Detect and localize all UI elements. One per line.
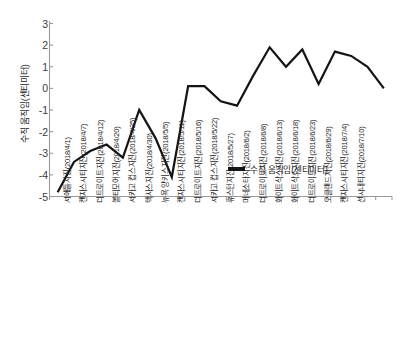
x-tick-label: 뉴욕 양키스지진(2018/5/5)	[159, 121, 170, 202]
x-tick-label: 신시내티지진(2018/7/10)	[355, 126, 366, 203]
legend-line-swatch	[228, 167, 245, 171]
x-tick-label: 캔자스시티지진(2018/5/11)	[175, 120, 186, 203]
x-tick-label: 디트로이트지진(2018/6/23)	[306, 119, 317, 202]
legend-label: 수직 움직임(센티미터)	[250, 163, 328, 175]
x-axis-tick-labels: 시애틀지진(2018/4/1)캔자스시티지진(2018/4/7)디트로이트지진(…	[0, 0, 402, 354]
x-tick-label: 디트로이트지진(2018/4/12)	[94, 119, 105, 202]
chart-legend: 수직 움직임(센티미터)	[228, 163, 328, 175]
x-tick-label: 캔자스시티지진(2018/4/7)	[77, 123, 88, 202]
x-tick-label: 디트로이트지진(2018/5/16)	[192, 119, 203, 202]
x-tick-label: 시카고 컵스지진(2018/5/22)	[208, 117, 219, 202]
x-tick-label: 볼티모어지진(2018/4/20)	[110, 126, 121, 203]
x-tick-label: 캔자스시티지진(2018/7/4)	[338, 123, 349, 202]
x-tick-label: 텍사스지진(2018/4/30)	[143, 133, 154, 203]
x-tick-label: 시애틀지진(2018/4/1)	[61, 137, 72, 203]
line-chart: 수직 움직임(센티미터) 3210-1-2-3-4-5 시애틀지진(2018/4…	[0, 0, 402, 354]
x-tick-label: 화이트삭스지진(2018/6/18)	[289, 119, 300, 202]
x-tick-label: 화이트삭스지진(2018/6/13)	[273, 119, 284, 202]
x-tick-label: 시카고 컵스지진(2018/4/25)	[126, 117, 137, 202]
